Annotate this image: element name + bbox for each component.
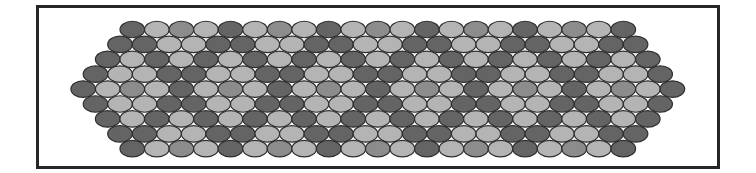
ellipse-cell <box>329 126 354 143</box>
ellipse-cell <box>562 111 587 128</box>
ellipse-cell <box>611 111 636 128</box>
ellipse-cell <box>537 21 562 38</box>
ellipse-cell <box>255 36 280 53</box>
ellipse-cell <box>488 21 513 38</box>
ellipse-cell <box>599 96 624 113</box>
ellipse-cell <box>378 36 403 53</box>
ellipse-cell <box>390 21 415 38</box>
ellipse-cell <box>488 140 513 157</box>
ellipse-cell <box>316 111 341 128</box>
ellipse-cell <box>378 126 403 143</box>
ellipse-cell <box>292 140 317 157</box>
ellipse-cell <box>586 140 611 157</box>
ellipse-cell <box>230 126 255 143</box>
ellipse-cell <box>402 36 427 53</box>
ellipse-cell <box>501 96 526 113</box>
ellipse-cell <box>623 96 648 113</box>
ellipse-cell <box>353 36 378 53</box>
ellipse-cell <box>537 140 562 157</box>
ellipse-cell <box>280 96 305 113</box>
ellipse-cell <box>611 21 636 38</box>
ellipse-cell <box>439 111 464 128</box>
ellipse-cell <box>316 81 341 98</box>
ellipse-cell <box>120 140 145 157</box>
ellipse-cell <box>586 81 611 98</box>
ellipse-cell <box>550 96 575 113</box>
ellipse-cell <box>574 66 599 83</box>
ellipse-cell <box>599 36 624 53</box>
ellipse-cell <box>378 96 403 113</box>
ellipse-cell <box>169 51 194 68</box>
ellipse-cell <box>243 51 268 68</box>
ellipse-cell <box>145 21 170 38</box>
ellipse-cell <box>390 140 415 157</box>
ellipse-cell <box>439 21 464 38</box>
ellipse-cell <box>562 140 587 157</box>
ellipse-cell <box>194 140 219 157</box>
ellipse-cell <box>353 126 378 143</box>
ellipse-cell <box>353 66 378 83</box>
ellipse-cell <box>415 51 440 68</box>
ellipse-cell <box>427 36 452 53</box>
ellipse-row <box>120 21 636 38</box>
ellipse-cell <box>316 21 341 38</box>
ellipse-cell <box>341 81 366 98</box>
ellipse-cell <box>95 51 120 68</box>
ellipse-cell <box>329 66 354 83</box>
ellipse-cell <box>341 140 366 157</box>
ellipse-cell <box>427 66 452 83</box>
ellipse-cell <box>194 51 219 68</box>
ellipse-cell <box>132 126 157 143</box>
ellipse-cell <box>513 111 538 128</box>
ellipse-cell <box>206 66 231 83</box>
ellipse-cell <box>231 66 256 83</box>
ellipse-cell <box>378 66 403 83</box>
ellipse-cell <box>206 96 231 113</box>
ellipse-cell <box>513 140 538 157</box>
ellipse-cell <box>304 66 329 83</box>
ellipse-cell <box>525 66 550 83</box>
ellipse-cell <box>71 81 96 98</box>
ellipse-cell <box>95 111 120 128</box>
ellipse-cell <box>574 126 599 143</box>
ellipse-cell <box>230 36 255 53</box>
ellipse-cell <box>366 140 391 157</box>
ellipse-cell <box>476 66 501 83</box>
ellipse-cell <box>451 36 476 53</box>
ellipse-row <box>108 126 648 143</box>
ellipse-cell <box>83 66 108 83</box>
ellipse-cell <box>623 36 648 53</box>
ellipse-cell <box>206 36 231 53</box>
ellipse-cell <box>83 96 108 113</box>
ellipse-cell <box>415 81 440 98</box>
ellipse-cell <box>218 21 243 38</box>
ellipse-row <box>83 96 672 113</box>
ellipse-cell <box>145 51 170 68</box>
ellipse-cell <box>464 51 489 68</box>
ellipse-cell <box>415 21 440 38</box>
ellipse-cell <box>648 66 673 83</box>
ellipse-cell <box>660 81 685 98</box>
ellipse-cell <box>181 36 206 53</box>
ellipse-cell <box>157 36 182 53</box>
ellipse-cell <box>427 126 452 143</box>
ellipse-cell <box>537 81 562 98</box>
ellipse-cell <box>525 96 550 113</box>
ellipse-cell <box>439 81 464 98</box>
ellipse-cell <box>120 111 145 128</box>
ellipse-cell <box>464 81 489 98</box>
ellipse-cell <box>108 96 133 113</box>
ellipse-cell <box>120 51 145 68</box>
ellipse-cell <box>341 111 366 128</box>
ellipse-cell <box>476 96 501 113</box>
ellipse-cell <box>501 36 526 53</box>
ellipse-cell <box>292 111 317 128</box>
ellipse-cell <box>329 96 354 113</box>
ellipse-cell <box>341 51 366 68</box>
ellipse-cell <box>488 51 513 68</box>
ellipse-cell <box>181 96 206 113</box>
ellipse-cell <box>194 21 219 38</box>
ellipse-cell <box>169 21 194 38</box>
ellipse-cell <box>292 51 317 68</box>
ellipse-cell <box>365 51 390 68</box>
